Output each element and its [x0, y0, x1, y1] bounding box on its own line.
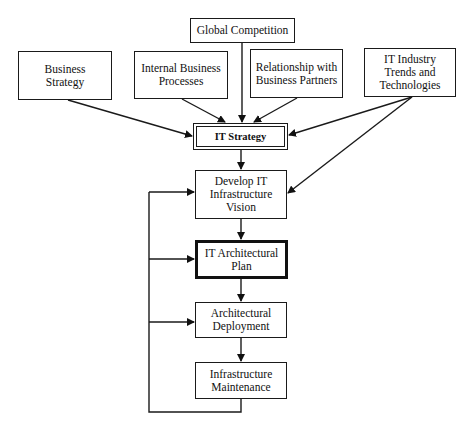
edge-trends-to-strategy — [289, 97, 412, 135]
node-global-competition: Global Competition — [190, 18, 295, 43]
node-architectural-deployment: Architectural Deployment — [195, 302, 287, 338]
node-it-strategy: IT Strategy — [193, 123, 288, 150]
edge-internal-to-strategy — [182, 99, 225, 122]
node-infrastructure-maintenance: Infrastructure Maintenance — [195, 362, 287, 399]
node-internal-business-processes: Internal Business Processes — [134, 51, 228, 99]
edge-relationship-to-strategy — [254, 98, 297, 122]
edge-trends-to-vision — [288, 97, 412, 193]
edge-business-to-strategy — [68, 100, 192, 136]
node-it-architectural-plan: IT Architectural Plan — [195, 240, 288, 279]
node-it-industry-trends: IT Industry Trends and Technologies — [364, 48, 456, 97]
node-relationship-partners: Relationship with Business Partners — [250, 49, 343, 98]
it-infrastructure-flowchart: Global Competition Business Strategy Int… — [0, 0, 474, 423]
node-develop-it-infrastructure-vision: Develop IT Infrastructure Vision — [195, 170, 287, 219]
node-business-strategy: Business Strategy — [18, 51, 112, 100]
